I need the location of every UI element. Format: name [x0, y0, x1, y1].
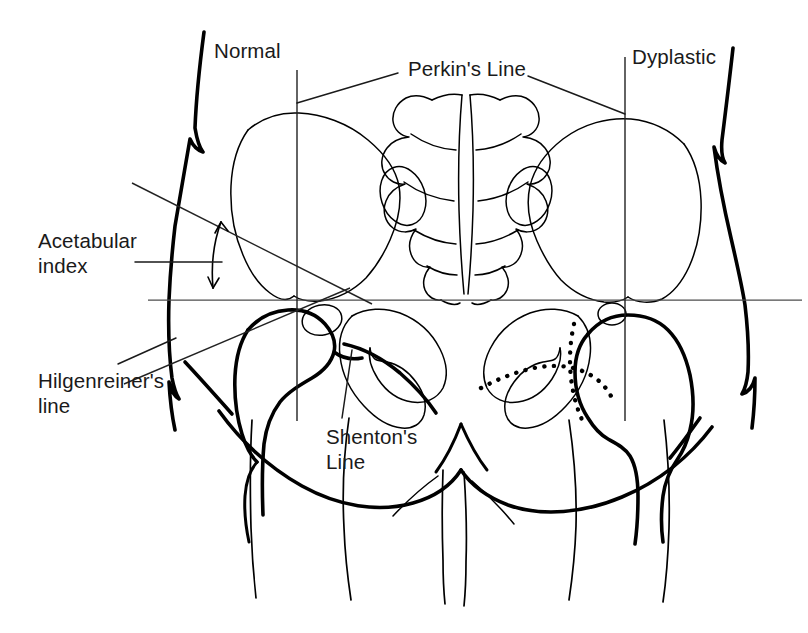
- leader-line-perkins-right: [528, 76, 625, 114]
- label-perkins-line: Perkin's Line: [408, 56, 526, 81]
- thigh-outline-left-outer: [250, 420, 256, 598]
- label-dyplastic: Dyplastic: [632, 44, 716, 69]
- shentons-line-broken-dyplastic: [481, 324, 612, 424]
- torso-skin-outline-right: [714, 48, 755, 428]
- label-acetabular-index: Acetabular index: [38, 228, 137, 278]
- label-normal: Normal: [214, 38, 281, 63]
- femoral-shaft-normal-side: [185, 362, 232, 414]
- thigh-outline-right-outer: [663, 420, 669, 602]
- sacrum: [382, 94, 550, 304]
- iliac-wing-dyplastic-side: [528, 119, 701, 303]
- diagram-canvas: [0, 0, 808, 633]
- iliac-wing-normal-side: [231, 113, 400, 301]
- acetabular-index-angle-arrow: [208, 222, 228, 288]
- label-shentons-line: Shenton's Line: [326, 424, 417, 474]
- leader-line-perkins-left: [297, 73, 398, 103]
- torso-skin-outline-left: [169, 32, 204, 430]
- perineal-midline-right: [464, 472, 466, 606]
- hip-dysplasia-diagram: Normal Perkin's Line Dyplastic Acetabula…: [0, 0, 808, 633]
- femoral-neck-normal-side: [334, 352, 362, 359]
- inguinal-fold-right: [472, 481, 514, 524]
- leader-line-hilgenreiners: [118, 338, 176, 364]
- femoral-shaft-dyplastic-side: [670, 418, 700, 458]
- label-hilgenreiners-line: Hilgenreiner's line: [38, 368, 164, 418]
- proximal-femur-dyplastic-side: [575, 315, 693, 544]
- pubic-symphysis: [436, 424, 487, 472]
- leader-line-shenton: [342, 350, 352, 418]
- sacroiliac-joint-left: [373, 161, 433, 232]
